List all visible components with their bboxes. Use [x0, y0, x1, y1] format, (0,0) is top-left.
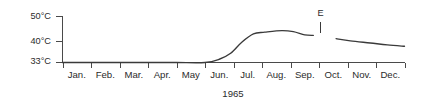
series-line-segment-2 [336, 39, 404, 47]
x-axis-label-feb: Feb. [96, 69, 115, 80]
x-axis-ticks [64, 63, 406, 68]
x-axis-title-year: 1965 [222, 88, 243, 99]
chart-canvas: 50°C 40°C 33°C Jan.Feb.Mar.Apr.MayJun.Ju… [0, 0, 423, 106]
x-axis-label-dec: Dec. [380, 69, 400, 80]
x-axis-label-nov: Nov. [352, 69, 371, 80]
y-axis-label-40: 40°C [30, 36, 51, 46]
annotation-group: E [317, 8, 323, 33]
y-axis [56, 17, 63, 63]
x-axis-label-jul: Jul. [240, 69, 255, 80]
temperature-chart: 50°C 40°C 33°C Jan.Feb.Mar.Apr.MayJun.Ju… [0, 0, 423, 106]
y-axis-label-33: 33°C [30, 56, 51, 66]
x-axis-label-jun: Jun. [210, 69, 228, 80]
series-line-segment-1 [63, 31, 314, 63]
x-axis-label-oct: Oct. [324, 69, 342, 80]
x-axis-label-mar: Mar. [124, 69, 143, 80]
event-marker-e-label: E [317, 8, 323, 18]
y-axis-labels: 50°C 40°C 33°C [30, 11, 51, 66]
x-axis-label-aug: Aug. [266, 69, 286, 80]
x-axis-label-may: May [182, 69, 200, 80]
x-axis-label-sep: Sep. [295, 69, 315, 80]
y-axis-label-50: 50°C [30, 11, 51, 21]
data-series-group [63, 31, 405, 63]
x-axis-labels: Jan.Feb.Mar.Apr.MayJun.Jul.Aug.Sep.Oct.N… [68, 69, 400, 80]
x-axis-label-jan: Jan. [68, 69, 86, 80]
x-axis-label-apr: Apr. [154, 69, 171, 80]
